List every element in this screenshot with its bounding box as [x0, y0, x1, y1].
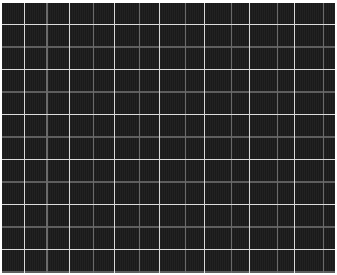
plaid-fabric-texture — [2, 3, 335, 273]
